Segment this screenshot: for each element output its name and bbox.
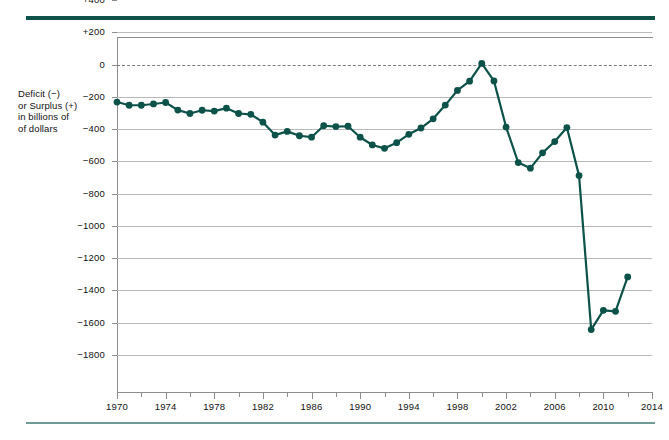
x-tick-mark-minor [385,393,386,397]
data-point-marker [527,165,534,172]
data-point-marker [345,123,352,130]
data-point-marker [223,105,230,112]
data-point-marker [515,159,522,166]
x-tick-label: 2006 [535,401,575,412]
data-point-marker [612,308,619,315]
x-tick-label: 1974 [146,401,186,412]
data-series-layer [117,37,653,393]
x-tick-mark-major [555,393,556,399]
data-point-marker [126,102,133,109]
data-point-marker [138,102,145,109]
data-point-marker [150,101,157,108]
x-tick-label: 1994 [389,401,429,412]
data-point-marker [247,111,254,118]
x-tick-mark-minor [482,393,483,397]
x-tick-mark-minor [141,393,142,397]
x-tick-mark-major [652,393,653,399]
data-point-marker [187,110,194,117]
data-point-marker [332,123,339,130]
x-tick-mark-minor [628,393,629,397]
data-point-marker [320,122,327,129]
x-tick-mark-minor [287,393,288,397]
x-tick-label: 1998 [437,401,477,412]
top-divider-rule [26,16,655,20]
data-point-marker [454,87,461,94]
data-point-marker [114,99,121,106]
y-tick-label: −1800 [59,349,105,360]
y-tick-label: −1400 [59,284,105,295]
data-point-marker [369,142,376,149]
x-tick-mark-major [506,393,507,399]
x-tick-mark-major [457,393,458,399]
x-tick-mark-minor [579,393,580,397]
data-point-marker [260,119,267,126]
y-tick-label: +200 [59,26,105,37]
x-tick-label: 2002 [486,401,526,412]
x-tick-mark-major [603,393,604,399]
gridline [117,32,652,33]
data-point-marker [466,78,473,85]
series-line [117,63,628,329]
x-tick-label: 2014 [632,401,669,412]
x-tick-mark-minor [190,393,191,397]
data-point-marker [235,110,242,117]
x-tick-mark-major [117,393,118,399]
x-tick-mark-minor [239,393,240,397]
y-tick-label: −600 [59,155,105,166]
data-point-marker [551,138,558,145]
data-point-marker [539,149,546,156]
y-tick-label: −400 [59,123,105,134]
y-tick-mark [112,32,117,33]
y-tick-label: −1000 [59,220,105,231]
y-tick-label: −800 [59,188,105,199]
data-point-marker [211,108,218,115]
data-point-marker [405,131,412,138]
x-tick-mark-major [214,393,215,399]
x-tick-mark-major [312,393,313,399]
data-point-marker [576,172,583,179]
data-point-marker [174,107,181,114]
y-tick-label: −1200 [59,252,105,263]
data-point-marker [624,274,631,281]
x-tick-mark-major [360,393,361,399]
y-tick-label: −1600 [59,317,105,328]
y-axis-caption-line-3: in billions of [18,111,104,123]
data-point-marker [442,102,449,109]
data-point-marker [600,307,607,314]
x-tick-label: 1978 [194,401,234,412]
x-tick-label: 1982 [243,401,283,412]
data-point-marker [272,132,279,139]
data-point-marker [491,77,498,84]
y-tick-label: +400 [59,0,105,5]
data-point-marker [503,124,510,131]
data-point-marker [563,124,570,131]
data-point-marker [393,139,400,146]
x-tick-mark-minor [530,393,531,397]
data-point-marker [357,134,364,141]
x-tick-label: 1990 [340,401,380,412]
data-point-marker [430,115,437,122]
x-tick-mark-major [166,393,167,399]
y-tick-label: 0 [59,59,105,70]
bottom-divider-rule [26,422,655,424]
x-tick-label: 2010 [583,401,623,412]
x-tick-mark-minor [336,393,337,397]
data-point-marker [381,145,388,152]
data-point-marker [478,60,485,67]
data-point-marker [296,132,303,139]
y-tick-mark [112,0,117,1]
x-tick-mark-major [409,393,410,399]
x-tick-label: 1986 [292,401,332,412]
x-tick-mark-minor [433,393,434,397]
x-tick-label: 1970 [97,401,137,412]
y-tick-label: −200 [59,91,105,102]
data-point-marker [418,125,425,132]
budget-deficit-chart-figure: Deficit (−) or Surplus (+) in billions o… [0,0,669,440]
data-point-marker [308,134,315,141]
data-point-marker [199,107,206,114]
data-point-marker [588,326,595,333]
data-point-marker [284,128,291,135]
x-tick-mark-major [263,393,264,399]
data-point-marker [162,99,169,106]
